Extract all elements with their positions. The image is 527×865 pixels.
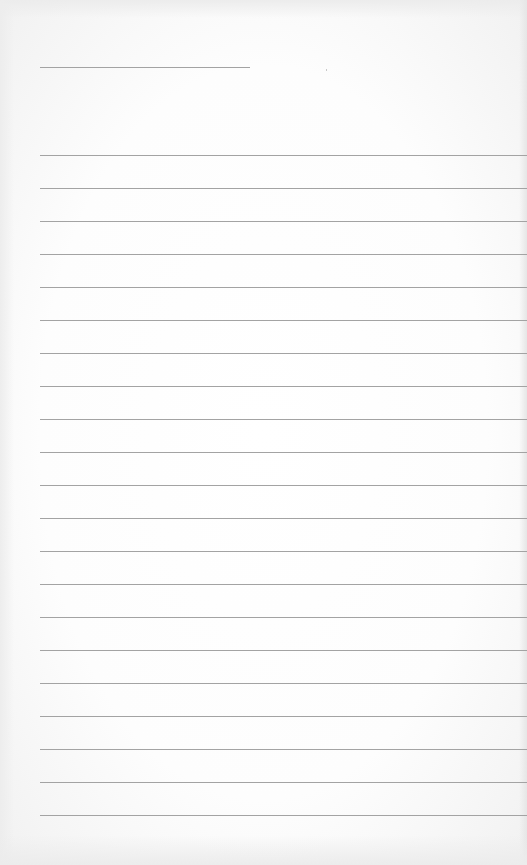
right-edge-shadow [519,0,527,865]
lined-paper-page [0,0,527,865]
ruled-line [40,386,527,387]
top-edge-shadow [0,0,527,18]
ruled-line [40,650,527,651]
header-title-line [40,67,250,68]
ruled-line [40,518,527,519]
ruled-line [40,188,527,189]
ruled-line [40,353,527,354]
ruled-line [40,320,527,321]
ruled-line [40,254,527,255]
ruled-line [40,749,527,750]
ruled-line [40,617,527,618]
bottom-edge-shadow [0,835,527,865]
ruled-line [40,155,527,156]
ruled-line [40,485,527,486]
paper-speck [326,69,327,71]
left-edge-shadow [0,0,14,865]
ruled-line [40,221,527,222]
ruled-line [40,683,527,684]
ruled-line [40,782,527,783]
ruled-line [40,584,527,585]
ruled-line [40,815,527,816]
ruled-line [40,716,527,717]
ruled-line [40,551,527,552]
ruled-line [40,452,527,453]
ruled-line [40,419,527,420]
ruled-line [40,287,527,288]
